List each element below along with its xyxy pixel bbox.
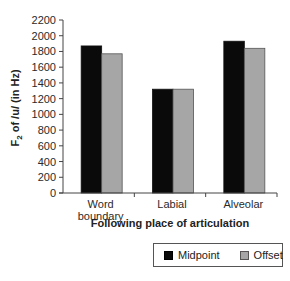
y-tick-label: 2000 [32, 30, 56, 42]
y-tick-label: 1600 [32, 61, 56, 73]
chart-legend: Midpoint Offset [153, 243, 283, 267]
y-tick-label: 400 [38, 156, 56, 168]
legend-swatch-midpoint [164, 251, 173, 260]
bar-chart: 0200400600800100012001400160018002000220… [0, 0, 290, 281]
y-tick-label: 1800 [32, 45, 56, 57]
bar-midpoint-2 [224, 41, 245, 193]
bar-offset-0 [102, 54, 123, 193]
y-tick-label: 1000 [32, 108, 56, 120]
bar-offset-2 [244, 48, 264, 193]
y-tick-label: 1200 [32, 93, 56, 105]
y-tick-label: 600 [38, 140, 56, 152]
x-category-label: Labial [157, 198, 186, 210]
y-tick-label: 0 [50, 187, 56, 199]
bar-midpoint-0 [81, 46, 102, 193]
y-tick-label: 800 [38, 124, 56, 136]
legend-label-midpoint: Midpoint [178, 249, 220, 261]
y-tick-label: 1400 [32, 77, 56, 89]
x-axis-ticks [134, 193, 277, 197]
x-category-label: Alveolar [223, 198, 263, 210]
x-category-label: Word [88, 198, 114, 210]
bars [81, 41, 265, 193]
y-axis-ticks: 0200400600800100012001400160018002000220… [32, 14, 63, 199]
legend-label-offset: Offset [254, 249, 283, 261]
legend-item-midpoint: Midpoint [164, 249, 220, 261]
y-axis-title: F2 of /u/ (in Hz) [9, 69, 24, 147]
y-tick-label: 2200 [32, 14, 56, 26]
bar-midpoint-1 [153, 89, 174, 193]
bar-offset-1 [173, 89, 194, 193]
y-tick-label: 200 [38, 171, 56, 183]
legend-swatch-offset [240, 251, 249, 260]
x-axis-title: Following place of articulation [91, 217, 250, 229]
legend-item-offset: Offset [240, 249, 283, 261]
